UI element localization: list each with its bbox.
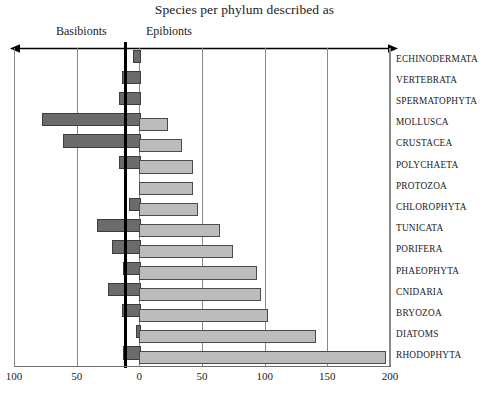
bar-epibionts-cnidaria — [139, 288, 261, 301]
category-label-protozoa: PROTOZOA — [396, 181, 447, 191]
chart-root: Species per phylum described as Basibion… — [0, 0, 489, 404]
bar-epibionts-polychaeta — [139, 160, 193, 173]
legend-epibionts-label: Epibionts — [146, 24, 192, 39]
category-label-mollusca: MOLLUSCA — [396, 117, 449, 127]
legend-basibionts-label: Basibionts — [56, 24, 107, 39]
bar-epibionts-bryozoa — [139, 309, 268, 322]
chart-title: Species per phylum described as — [0, 2, 489, 18]
zero-axis-line — [124, 42, 127, 368]
gridline-150-5 — [327, 48, 328, 366]
bar-epibionts-protozoa — [139, 182, 193, 195]
x-tick-1: 50 — [71, 370, 82, 382]
category-label-bryozoa: BRYOZOA — [396, 308, 442, 318]
category-label-rhodophyta: RHODOPHYTA — [396, 350, 461, 360]
category-label-phaeophyta: PHAEOPHYTA — [396, 266, 459, 276]
bar-basibionts-spermatophyta — [119, 92, 141, 105]
bar-epibionts-tunicata — [139, 224, 219, 237]
x-tick-6: 200 — [382, 370, 399, 382]
category-label-porifera: PORIFERA — [396, 244, 443, 254]
bar-basibionts-echinodermata — [133, 50, 141, 63]
category-label-cnidaria: CNIDARIA — [396, 287, 443, 297]
bar-epibionts-crustacea — [139, 139, 182, 152]
gridline-200-6 — [390, 48, 391, 366]
category-label-spermatophyta: SPERMATOPHYTA — [396, 96, 477, 106]
bar-basibionts-polychaeta — [119, 156, 141, 169]
bar-epibionts-phaeophyta — [139, 266, 257, 279]
x-tick-5: 150 — [319, 370, 336, 382]
bar-epibionts-diatoms — [139, 330, 316, 343]
bar-epibionts-rhodophyta — [139, 351, 386, 364]
bar-epibionts-mollusca — [139, 118, 168, 131]
x-tick-3: 50 — [197, 370, 208, 382]
x-tick-4: 100 — [256, 370, 273, 382]
gridline-100-0 — [14, 48, 15, 366]
bar-basibionts-tunicata — [97, 219, 142, 232]
bar-epibionts-porifera — [139, 245, 233, 258]
category-label-crustacea: CRUSTACEA — [396, 138, 452, 148]
category-label-chlorophyta: CHLOROPHYTA — [396, 202, 467, 212]
category-label-vertebrata: VERTEBRATA — [396, 75, 457, 85]
bar-basibionts-crustacea — [63, 134, 141, 147]
x-axis-line — [14, 366, 391, 367]
category-label-tunicata: TUNICATA — [396, 223, 443, 233]
x-tick-2: 0 — [137, 370, 143, 382]
category-label-echinodermata: ECHINODERMATA — [396, 54, 478, 64]
category-label-diatoms: DIATOMS — [396, 329, 439, 339]
category-label-polychaeta: POLYCHAETA — [396, 160, 458, 170]
gridline-50-1 — [77, 48, 78, 366]
bar-epibionts-chlorophyta — [139, 203, 198, 216]
x-tick-0: 100 — [6, 370, 23, 382]
plot-area — [14, 48, 390, 366]
